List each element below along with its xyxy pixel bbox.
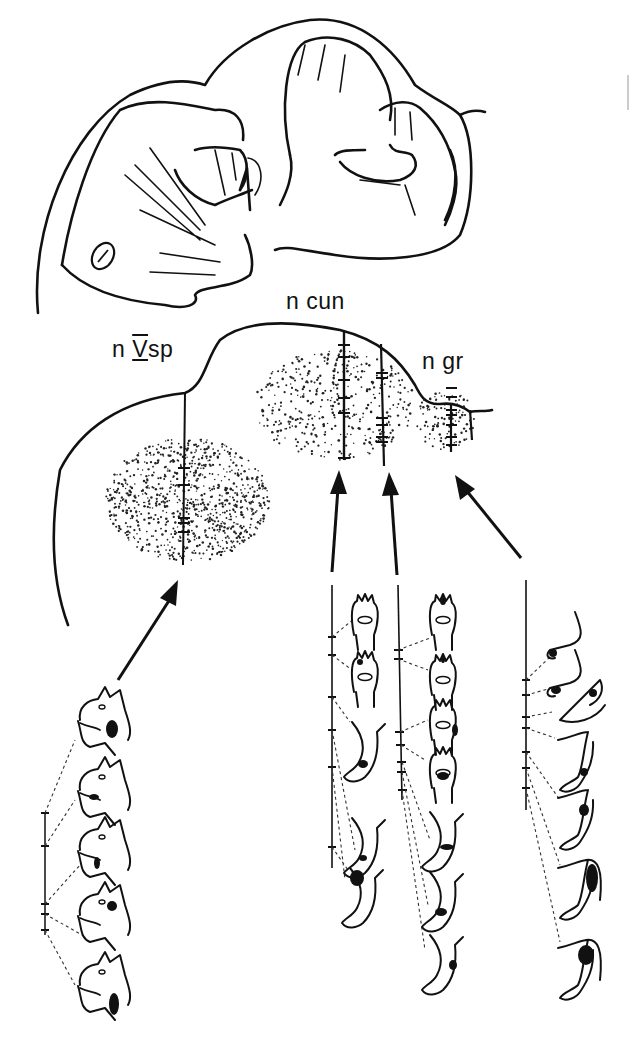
stipple-n5sp	[105, 439, 270, 561]
rf-column-face	[41, 687, 130, 1020]
rf-column-hindlimb	[522, 580, 560, 942]
label-n-cun: n cun	[286, 288, 345, 315]
cat-head-illustration	[37, 20, 628, 313]
brainstem-somatotopy-figure	[0, 0, 641, 1042]
label-n-gr: n gr	[422, 348, 464, 375]
label-n-vsp-prefix: n	[112, 336, 125, 362]
rf-column-forepaw-2	[394, 585, 430, 950]
projection-arrows	[118, 470, 521, 680]
label-n-vsp-roman: V	[132, 336, 148, 362]
label-n-vsp-suffix: sp	[148, 336, 173, 362]
rf-column-forepaw-1	[328, 585, 355, 880]
label-n-vsp: n Vsp	[112, 336, 173, 363]
stipple-ncun	[256, 349, 413, 460]
